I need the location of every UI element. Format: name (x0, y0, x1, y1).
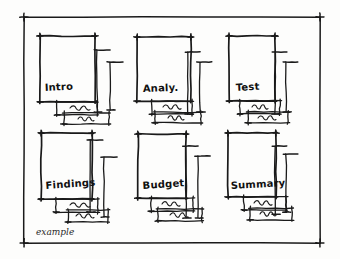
panel-findings-subbox-0-left (56, 197, 57, 213)
panel-findings-subbox-0-top (54, 199, 99, 200)
panel-findings-box-top (39, 133, 93, 134)
panel-intro-subbox-0-bottom (56, 114, 99, 115)
panel-analy-label: Analy. (143, 82, 179, 94)
panel-analy-box-right (191, 35, 192, 103)
panel-findings-scribble-1 (76, 214, 94, 218)
panel-test (226, 33, 298, 125)
panel-test-scribble-0 (252, 105, 268, 109)
panel-findings-subbox-1-right (108, 208, 109, 223)
panel-budget-subbox-0-top (150, 198, 195, 199)
panel-analy-subbox-1-bottom (153, 122, 202, 123)
panel-analy-box-top (136, 36, 193, 37)
panel-budget-subbox-1-top (156, 209, 204, 210)
panel-budget-subbox-0-right (193, 196, 194, 212)
panel-intro-subbox-0-right (97, 101, 98, 117)
panel-analy-subbox-0-top (151, 101, 194, 102)
panel-findings-subbox-0-bottom (54, 212, 100, 213)
panel-test-scribble-1 (258, 116, 276, 120)
panel-test-subbox-0-right (279, 99, 280, 115)
panel-summary-subbox-0-right (286, 196, 287, 212)
panel-summary-subbox-1-left (250, 206, 251, 221)
panel-test-bracket-1 (286, 62, 287, 112)
panel-intro-subbox-0-top (56, 102, 99, 103)
panel-analy-subbox-0-bottom (151, 114, 194, 115)
panel-findings-subbox-0-right (98, 198, 99, 214)
panel-budget-subbox-0-left (151, 196, 152, 212)
panel-budget (135, 131, 211, 223)
panel-analy-subbox-1-top (154, 112, 203, 113)
sketch-linework (0, 0, 340, 259)
panel-intro-scribble-1 (78, 117, 94, 121)
panel-intro-bracket-cap-top-0 (94, 50, 110, 51)
panel-findings-box-right (92, 132, 93, 201)
panel-intro-box-left (40, 34, 41, 103)
panel-analy-scribble-0 (163, 105, 181, 109)
panel-summary-box-left (228, 132, 229, 199)
panel-summary-bracket-cap-bottom-1 (283, 212, 291, 213)
panel-summary-bracket-cap-top-0 (272, 146, 287, 147)
panel-intro-subbox-1-bottom (63, 124, 111, 125)
panel-budget-subbox-1-left (157, 207, 158, 222)
panel-test-box-top (227, 36, 277, 37)
panel-budget-scribble-1 (170, 213, 188, 217)
panel-summary-subbox-0-left (243, 195, 244, 211)
panel-summary (225, 130, 298, 221)
panel-summary-subbox-1-top (249, 208, 294, 209)
panel-intro-label: Intro (44, 81, 73, 93)
panel-findings-subbox-1-top (66, 210, 110, 211)
panel-test-bracket-0 (275, 52, 276, 114)
panel-budget-scribble-0 (162, 202, 180, 207)
panel-test-subbox-0-bottom (238, 113, 281, 114)
panel-budget-subbox-1-bottom (157, 221, 204, 222)
frame-left (24, 17, 25, 243)
panel-test-label: Test (235, 81, 259, 93)
panel-findings-bracket-1 (104, 157, 105, 217)
frame-bottom (24, 243, 321, 244)
panel-test-subbox-1-bottom (247, 123, 290, 124)
panel-summary-subbox-1-bottom (249, 220, 294, 221)
figure-caption: example (36, 227, 74, 237)
panel-intro-scribble-0 (70, 106, 90, 110)
panel-budget-tick-bl (135, 198, 141, 199)
panel-summary-box-top (226, 133, 277, 134)
panel-analy-scribble-1 (168, 116, 184, 120)
panel-test-box-left (229, 35, 230, 103)
panel-findings-subbox-1-bottom (67, 222, 110, 223)
panel-findings-tick-bl (38, 199, 44, 200)
panel-linework-layer (37, 33, 298, 223)
panel-budget-bracket-0 (186, 146, 187, 218)
panel-summary-subbox-tick-0 (241, 210, 247, 211)
panel-intro (37, 33, 123, 125)
panel-intro-subbox-1-top (62, 113, 110, 114)
panel-analy-bracket-1 (200, 62, 201, 112)
panel-intro-bracket-1 (110, 62, 111, 110)
panel-findings-scribble-0 (70, 203, 90, 207)
panel-intro-subbox-1-right (109, 111, 110, 125)
panel-test-subbox-1-top (246, 112, 289, 113)
panel-budget-box-left (138, 133, 139, 200)
panel-findings-box-left (41, 131, 42, 201)
sketch-canvas: IntroAnaly.TestFindingsBudgetSummary exa… (0, 0, 340, 259)
panel-summary-scribble-0 (254, 201, 272, 206)
panel-analy-box-left (137, 36, 138, 103)
panel-intro-box-top (39, 36, 97, 37)
panel-summary-subbox-1-right (292, 206, 293, 221)
panel-budget-subbox-0-bottom (149, 211, 194, 212)
panel-analy-bracket-0 (188, 52, 189, 114)
panel-analy (134, 34, 212, 125)
panel-budget-box-top (137, 134, 188, 135)
